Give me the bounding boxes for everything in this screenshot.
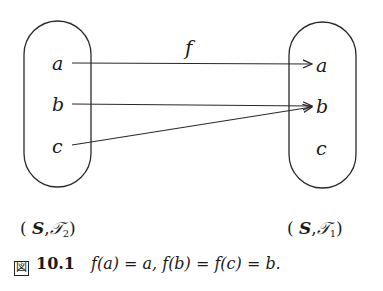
arrow-a-to-a (72, 63, 312, 64)
arrow-c-to-b (72, 107, 312, 145)
right-element-a: a (316, 54, 327, 76)
figure-caption: 図10.1f(a) = a, f(b) = f(c) = b. (14, 254, 281, 276)
left-element-a: a (52, 52, 63, 74)
right-element-c: c (316, 137, 327, 159)
left-space-set: S (32, 218, 44, 238)
right-space-label: ( S,𝒯1) (287, 218, 343, 239)
mapping-diagram: a b c a b c f (0, 0, 383, 291)
figure-mark-icon: 図 (14, 261, 29, 276)
left-element-b: b (52, 93, 64, 115)
right-element-b: b (316, 95, 328, 117)
right-space-set: S (299, 218, 311, 238)
caption-formula: f(a) = a, f(b) = f(c) = b. (91, 254, 281, 273)
left-space-topology: 𝒯 (50, 218, 63, 238)
function-label-f: f (183, 36, 196, 60)
right-space-topology: 𝒯 (317, 218, 330, 238)
left-element-c: c (52, 135, 63, 157)
left-space-label: ( S,𝒯2) (20, 218, 76, 239)
figure-number: 10.1 (36, 254, 75, 273)
arrow-b-to-b (72, 104, 312, 106)
